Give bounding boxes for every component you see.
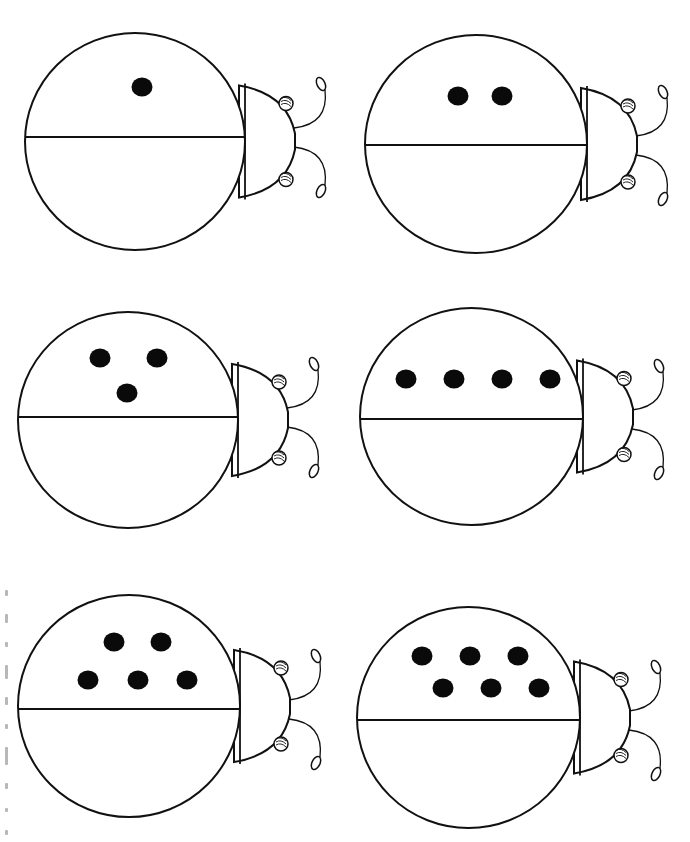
antenna-tip-lower xyxy=(307,463,320,479)
antenna-tip-lower xyxy=(652,465,665,481)
antenna-upper xyxy=(632,372,663,410)
antenna-tip-lower xyxy=(656,191,669,207)
spot-3 xyxy=(78,671,99,690)
spot-1 xyxy=(448,87,469,106)
antenna-tip-upper xyxy=(652,358,665,374)
ladybug-body xyxy=(365,35,587,253)
spot-5 xyxy=(177,671,198,690)
ladybug-body xyxy=(357,607,580,828)
spot-2 xyxy=(147,349,168,368)
antenna-tip-upper xyxy=(314,76,327,92)
antenna-upper xyxy=(289,662,320,700)
antenna-lower xyxy=(636,155,667,193)
spot-1 xyxy=(132,78,153,97)
antenna-lower xyxy=(632,429,663,467)
antenna-upper xyxy=(629,673,660,711)
antenna-tip-upper xyxy=(309,648,322,664)
ladybug-body xyxy=(18,595,240,817)
spot-1 xyxy=(412,647,433,666)
spot-4 xyxy=(128,671,149,690)
ladybug-2 xyxy=(365,33,670,255)
spot-2 xyxy=(460,647,481,666)
ladybug-1 xyxy=(25,31,328,252)
ladybug-4 xyxy=(360,306,666,527)
antenna-tip-lower xyxy=(309,755,322,771)
spot-3 xyxy=(508,647,529,666)
antenna-upper xyxy=(287,370,318,408)
spot-4 xyxy=(540,370,561,389)
ladybug-6 xyxy=(357,605,663,830)
antenna-tip-upper xyxy=(656,84,669,100)
spot-3 xyxy=(492,370,513,389)
spot-6 xyxy=(529,679,550,698)
antenna-upper xyxy=(294,90,325,128)
antenna-tip-upper xyxy=(307,356,320,372)
antenna-upper xyxy=(636,98,667,136)
ladybug-body xyxy=(25,33,245,250)
antenna-tip-lower xyxy=(314,183,327,199)
spot-1 xyxy=(396,370,417,389)
ladybug-body xyxy=(360,308,583,525)
ladybug-body xyxy=(18,312,238,528)
spot-2 xyxy=(444,370,465,389)
spot-2 xyxy=(151,633,172,652)
antenna-lower xyxy=(294,147,325,185)
ladybug-3 xyxy=(18,310,321,530)
spot-2 xyxy=(492,87,513,106)
spot-5 xyxy=(481,679,502,698)
spot-1 xyxy=(90,349,111,368)
spot-4 xyxy=(433,679,454,698)
antenna-tip-upper xyxy=(649,659,662,675)
antenna-lower xyxy=(629,730,660,768)
antenna-lower xyxy=(289,719,320,757)
ladybug-worksheet xyxy=(0,0,690,842)
spot-1 xyxy=(104,633,125,652)
antenna-tip-lower xyxy=(649,766,662,782)
vertical-copyright-note xyxy=(1,590,11,835)
ladybug-5 xyxy=(18,593,323,819)
antenna-lower xyxy=(287,427,318,465)
spot-3 xyxy=(117,384,138,403)
